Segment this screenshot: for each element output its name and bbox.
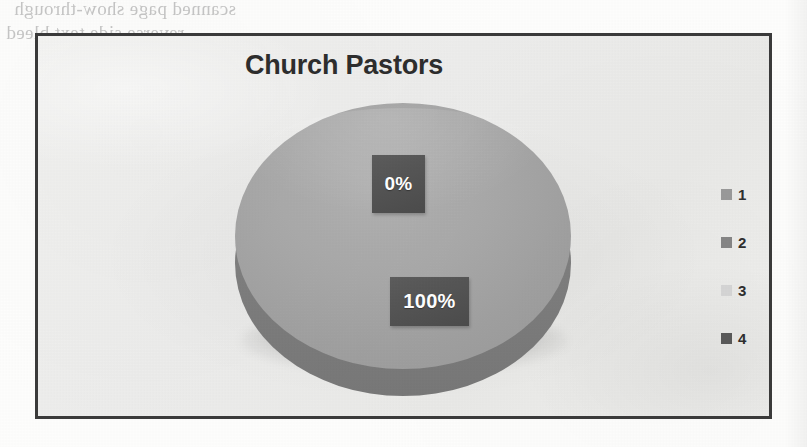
- data-label-zero-percent: 0%: [372, 155, 425, 213]
- pie-top-face: [235, 103, 571, 369]
- scanned-page: scanned page show-through reverse side t…: [0, 0, 807, 447]
- chart-legend: 1 2 3 4: [721, 187, 772, 345]
- legend-swatch-icon-3: [721, 285, 732, 296]
- legend-label-2: 2: [738, 235, 746, 250]
- legend-item-2: 2: [721, 235, 772, 249]
- page-edge-shading: [785, 0, 807, 447]
- legend-label-3: 3: [738, 283, 746, 298]
- legend-item-1: 1: [721, 187, 772, 201]
- legend-label-1: 1: [738, 187, 746, 202]
- legend-swatch-icon-2: [721, 237, 732, 248]
- legend-swatch-icon-1: [721, 189, 732, 200]
- legend-item-4: 4: [721, 331, 772, 345]
- legend-swatch-icon-4: [721, 333, 732, 344]
- bleed-through-text-line-1: scanned page show-through: [14, 0, 236, 20]
- chart-title: Church Pastors: [38, 50, 650, 81]
- legend-item-3: 3: [721, 283, 772, 297]
- legend-label-4: 4: [738, 331, 746, 346]
- data-label-hundred-percent: 100%: [390, 277, 469, 326]
- chart-container: Church Pastors 0% 100% 1 2 3 4: [35, 33, 772, 419]
